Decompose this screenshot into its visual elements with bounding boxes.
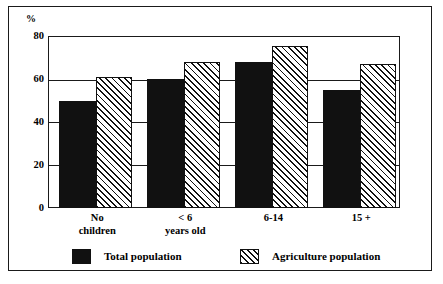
chart-figure: % 80 60 40 20 0 No children — [0, 0, 443, 284]
x-label-15-plus: 15 + — [316, 211, 408, 224]
x-label-under-6-line2: years old — [140, 224, 232, 237]
legend-label-agriculture-population: Agriculture population — [272, 250, 380, 262]
x-label-no-children-line2: children — [52, 224, 144, 237]
x-axis-category-labels: No children < 6 years old 6-14 15 + — [48, 211, 400, 243]
y-tick-80: 80 — [18, 31, 44, 42]
legend-entry-total-population[interactable]: Total population — [72, 246, 182, 266]
x-label-6-14: 6-14 — [228, 211, 320, 224]
x-label-15-plus-line1: 15 + — [316, 211, 408, 224]
bar-group-no-children — [59, 36, 135, 208]
x-label-no-children-line1: No — [52, 211, 144, 224]
y-tick-20: 20 — [18, 160, 44, 171]
bar-total-population-no-children[interactable] — [59, 101, 95, 209]
legend-swatch-solid-icon — [72, 249, 91, 264]
x-label-6-14-line1: 6-14 — [228, 211, 320, 224]
bar-total-population-under-6[interactable] — [147, 79, 183, 208]
y-tick-0: 0 — [18, 203, 44, 214]
bar-agriculture-population-under-6[interactable] — [184, 62, 220, 208]
bar-agriculture-population-6-14[interactable] — [272, 46, 308, 208]
y-axis-tick-labels: 80 60 40 20 0 — [14, 36, 44, 208]
legend-swatch-hatched-icon — [240, 249, 259, 264]
bar-group-15-plus — [323, 36, 399, 208]
bar-total-population-6-14[interactable] — [235, 62, 271, 208]
legend-label-total-population: Total population — [104, 250, 182, 262]
x-label-no-children: No children — [52, 211, 144, 237]
legend-entry-agriculture-population[interactable]: Agriculture population — [240, 246, 380, 266]
y-tick-60: 60 — [18, 74, 44, 85]
bar-group-under-6 — [147, 36, 223, 208]
bar-agriculture-population-15-plus[interactable] — [360, 64, 396, 208]
y-axis-unit-label: % — [26, 13, 36, 24]
bars-layer — [48, 36, 400, 208]
x-label-under-6: < 6 years old — [140, 211, 232, 237]
bar-total-population-15-plus[interactable] — [323, 90, 359, 208]
x-label-under-6-line1: < 6 — [140, 211, 232, 224]
y-tick-40: 40 — [18, 117, 44, 128]
bar-group-6-14 — [235, 36, 311, 208]
bar-agriculture-population-no-children[interactable] — [96, 77, 132, 208]
chart-legend: Total population Agriculture population — [48, 246, 408, 268]
